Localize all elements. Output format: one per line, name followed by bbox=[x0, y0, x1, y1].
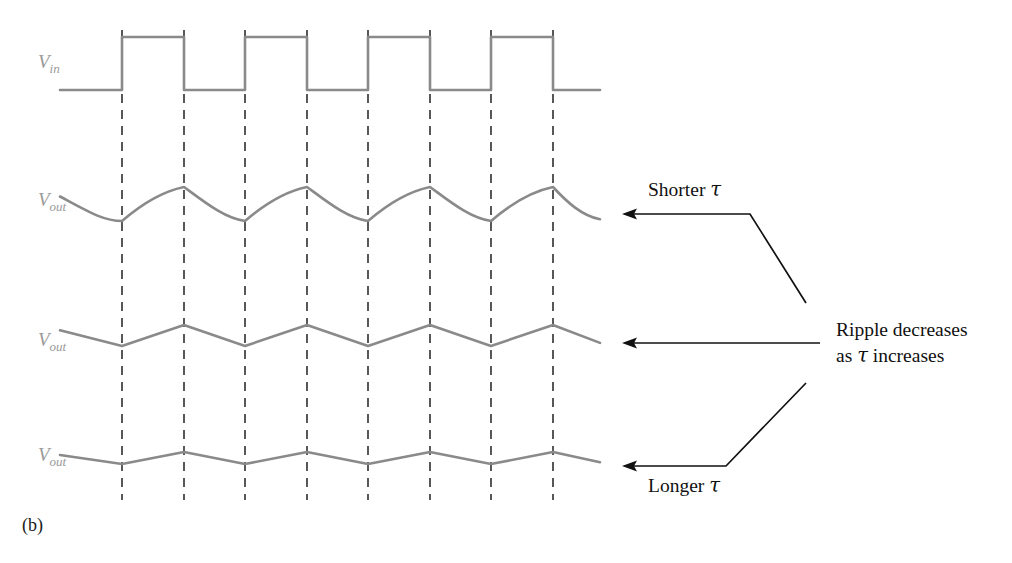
waveform-figure: Vin Vout Vout Vout Shorter τ Ripple decr… bbox=[0, 0, 1012, 563]
annotation-text-group: Shorter τ Ripple decreases as τ increase… bbox=[648, 178, 968, 497]
annotation-longer-tau: Longer τ bbox=[648, 474, 721, 497]
gridline-group bbox=[122, 30, 553, 500]
waveform-vout-long-tau bbox=[60, 452, 600, 464]
arrow-longer-tau bbox=[632, 383, 806, 466]
signal-label-group: Vin Vout Vout Vout bbox=[38, 51, 67, 469]
annotation-shorter-tau: Shorter τ bbox=[648, 178, 722, 201]
signal-label-vout-long-tau: Vout bbox=[38, 444, 67, 469]
waveform-vout-medium-tau bbox=[60, 325, 600, 346]
signal-label-vin: Vin bbox=[38, 51, 60, 76]
waveform-vout-short-tau bbox=[60, 187, 600, 221]
annotation-arrow-group bbox=[622, 209, 820, 472]
figure-canvas: Vin Vout Vout Vout Shorter τ Ripple decr… bbox=[0, 0, 1012, 563]
annotation-ripple-decreases-line1: Ripple decreases bbox=[836, 319, 968, 340]
waveform-group bbox=[60, 37, 600, 464]
annotation-ripple-decreases-line2: as τ increases bbox=[836, 344, 944, 367]
arrow-shorter-tau bbox=[632, 214, 806, 303]
figure-caption: (b) bbox=[22, 515, 43, 536]
signal-label-vout-medium-tau: Vout bbox=[38, 329, 67, 354]
signal-label-vout-short-tau: Vout bbox=[38, 189, 67, 214]
waveform-vin bbox=[60, 37, 600, 90]
